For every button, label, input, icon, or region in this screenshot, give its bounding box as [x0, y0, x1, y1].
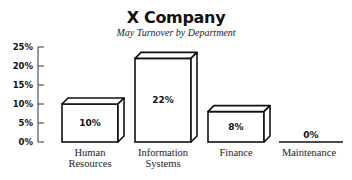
bar-top [135, 52, 197, 58]
y-axis: 0%5%10%15%20%25% [13, 42, 44, 147]
y-tick-label: 10% [13, 99, 34, 109]
bars: 10%22%8%0% [62, 52, 343, 142]
category-label: Systems [145, 158, 180, 169]
bar-top [62, 98, 124, 104]
bar-value-label: 10% [79, 118, 101, 128]
y-tick-label: 5% [19, 118, 34, 128]
bar-side [264, 106, 270, 142]
y-tick-label: 20% [13, 61, 34, 71]
bar-side [118, 98, 124, 142]
category-label: Maintenance [282, 147, 337, 158]
bar: 8% [208, 106, 270, 142]
bar-value-label: 22% [152, 95, 174, 105]
y-tick-label: 25% [13, 42, 34, 52]
category-label: Human [75, 147, 107, 158]
bar: 10% [62, 98, 124, 142]
bar-side [191, 52, 197, 142]
category-label: Information [138, 147, 189, 158]
category-label: Resources [68, 158, 111, 169]
y-tick-label: 0% [19, 137, 34, 147]
category-label: Finance [219, 147, 253, 158]
bar-value-label: 8% [228, 122, 243, 132]
category-labels: HumanResourcesInformationSystemsFinanceM… [68, 147, 336, 169]
bar-chart: 0%5%10%15%20%25% 10%22%8%0% HumanResourc… [0, 0, 352, 180]
bar: 22% [135, 52, 197, 142]
bar-top [208, 106, 270, 112]
bar-value-label: 0% [303, 130, 318, 140]
y-tick-label: 15% [13, 80, 34, 90]
bar: 0% [279, 130, 343, 142]
